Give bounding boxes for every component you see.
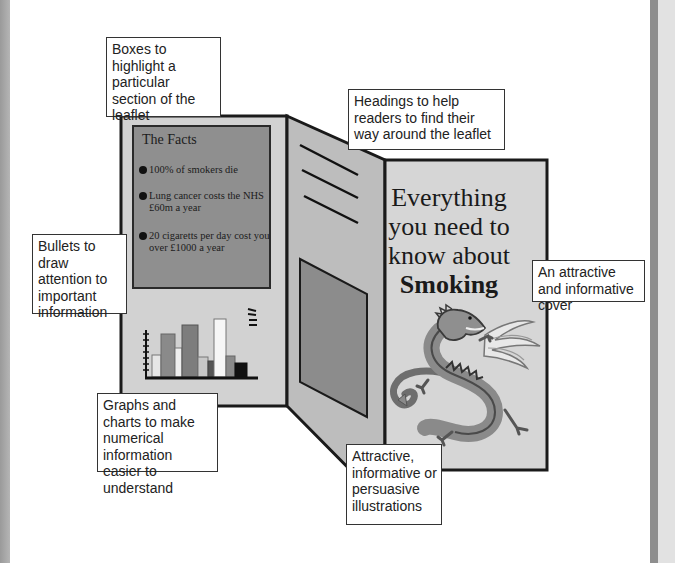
cover-title: Everything you need to know about Smokin…	[386, 183, 512, 299]
fact-item: 100% of smokers die	[139, 164, 273, 176]
cover-subject: Smoking	[386, 270, 512, 299]
fact-item: 20 cigaretts per day cost you over £1000…	[139, 230, 273, 254]
callout-graphs: Graphs and charts to make numerical info…	[97, 393, 218, 472]
callout-cover: An attractive and informative cover	[532, 260, 645, 302]
fact-item: Lung cancer costs the NHS £60m a year	[139, 190, 273, 214]
cover-line: you need to	[386, 212, 512, 241]
facts-box-content: The Facts 100% of smokers die Lung cance…	[133, 126, 270, 288]
bullet-icon	[139, 192, 147, 200]
callout-boxes: Boxes to highlight a particular section …	[106, 37, 221, 117]
facts-title: The Facts	[142, 132, 197, 148]
bullet-icon	[139, 166, 147, 174]
bullet-icon	[139, 232, 147, 240]
cover-line: Everything	[386, 183, 512, 212]
callout-headings: Headings to help readers to find their w…	[348, 89, 505, 150]
callout-bullets: Bullets to draw attention to important i…	[32, 234, 127, 314]
cover-line: know about	[386, 241, 512, 270]
callout-illustrations: Attractive, informative or persuasive il…	[346, 444, 442, 525]
